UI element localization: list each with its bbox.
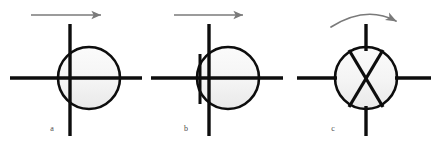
figure-container: a b c (0, 0, 437, 147)
figure-svg: a b c (0, 0, 437, 147)
panel-a-label: a (50, 124, 54, 133)
panel-c-label: c (331, 124, 335, 133)
panel-b-label: b (184, 124, 188, 133)
